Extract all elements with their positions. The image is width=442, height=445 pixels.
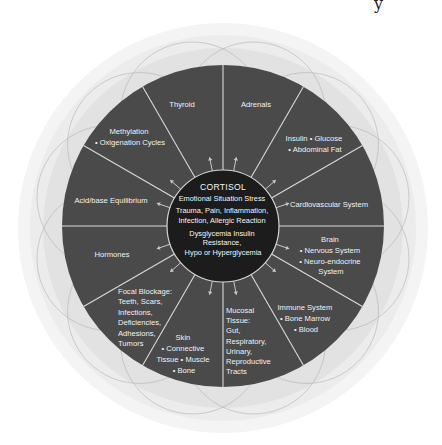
segment-acid-base: Acid/base Equilibrium xyxy=(74,196,147,205)
segment-cardiovascular: Cardiovascular System xyxy=(290,200,368,209)
segment-thyroid: Thyroid xyxy=(169,100,194,109)
segment-hormones: Hormones xyxy=(94,250,129,259)
segment-insulin: Insulin • Glucose • Abdominal Fat xyxy=(286,134,345,154)
wheel-svg: Thyroid Adrenals Insulin • Glucose • Abd… xyxy=(0,0,442,445)
segment-adrenals: Adrenals xyxy=(241,100,271,109)
cropped-title-fragment: y xyxy=(374,0,383,13)
center-title: CORTISOL xyxy=(200,182,246,192)
cortisol-wheel-diagram: y Thyroid Adrenals Insulin • Glucose • A… xyxy=(0,0,442,445)
